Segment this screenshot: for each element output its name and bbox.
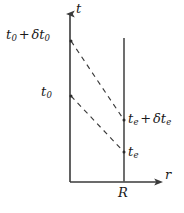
lower-ray-reception-point [123,151,126,154]
label-te-plus-delta-te: te+δte [128,112,171,127]
label-tedte-operator: + [140,111,151,126]
label-tedte-sub2: e [166,117,171,127]
label-t0-sub: 0 [46,90,51,100]
upper-ray-emission-point [70,40,73,43]
label-t0dt0-sub: 0 [11,33,16,43]
lower-light-ray [71,96,124,152]
label-t0dt0-operator: + [19,27,30,42]
label-t0: t0 [41,85,52,100]
r-axis-label: r [165,168,171,181]
label-t0dt0-base2: t [39,27,44,42]
label-te-sub: e [133,150,138,160]
label-t0dt0-sub2: 0 [45,33,50,43]
spacetime-diagram-figure: t0+δt0 t0 te+δte te t r R [0,0,184,213]
upper-ray-reception-point [123,119,126,122]
label-te: te [128,145,138,160]
upper-light-ray [71,41,124,120]
label-tedte-delta: δ [153,111,161,126]
label-t0-plus-delta-t0: t0+δt0 [6,28,50,43]
label-tedte-sub: e [133,117,138,127]
t-axis-label: t [76,2,81,15]
lower-ray-emission-point [70,95,73,98]
R-tick-label: R [118,186,128,199]
